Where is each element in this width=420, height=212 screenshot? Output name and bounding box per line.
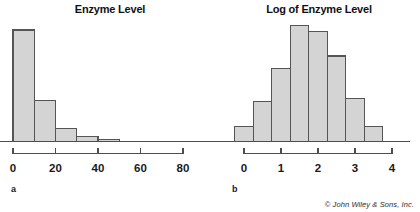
bar-group-b: [235, 26, 383, 142]
x-tick-label: 0: [241, 162, 247, 174]
x-tick-label: 80: [177, 162, 190, 174]
x-tick-label: 2: [315, 162, 321, 174]
histogram-bar: [56, 128, 77, 141]
panel-a-enzyme-level: Enzyme Level 020406080 a: [0, 0, 210, 212]
histogram-bar: [13, 30, 34, 142]
histogram-bar: [253, 102, 272, 142]
histogram-bar: [309, 32, 328, 142]
histogram-log-enzyme-level: 01234: [210, 0, 420, 180]
x-axis-b: [210, 142, 410, 154]
histogram-bar: [272, 68, 291, 141]
x-tick-label: 60: [134, 162, 147, 174]
panel-b-log-enzyme-level: Log of Enzyme Level 01234 b: [210, 0, 420, 212]
histogram-bar: [34, 100, 55, 141]
x-tick-label: 1: [278, 162, 285, 174]
x-tick-label: 20: [49, 162, 62, 174]
histogram-enzyme-level: 020406080: [0, 0, 210, 180]
histogram-bar: [364, 126, 383, 141]
panel-label-a: a: [11, 184, 16, 194]
copyright-credit: © John Wiley & Sons, Inc.: [325, 200, 414, 209]
histogram-bar: [346, 99, 365, 142]
histogram-bar: [327, 56, 346, 141]
x-tick-label: 3: [352, 162, 358, 174]
histogram-bar: [290, 26, 309, 142]
x-tick-label: 40: [92, 162, 105, 174]
x-tick-label: 4: [389, 162, 396, 174]
x-tick-labels-a: 020406080: [10, 162, 190, 174]
figure-two-histograms: Enzyme Level 020406080 a Log of Enzyme L…: [0, 0, 420, 212]
x-axis-a: [0, 142, 210, 154]
x-tick-label: 0: [10, 162, 16, 174]
panel-label-b: b: [232, 184, 238, 194]
histogram-bar: [77, 136, 98, 141]
bar-group-a: [13, 30, 119, 142]
x-tick-labels-b: 01234: [241, 162, 396, 174]
histogram-bar: [235, 126, 254, 141]
